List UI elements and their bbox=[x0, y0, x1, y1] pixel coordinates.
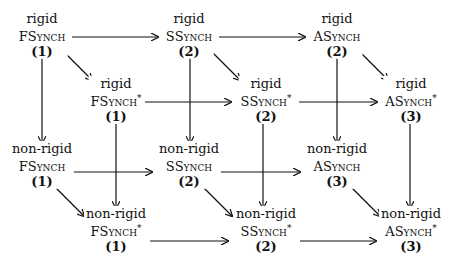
model-initial: A bbox=[314, 29, 323, 44]
node-nonrigid-ssynch: non-rigidSSynch(2) bbox=[157, 141, 221, 189]
node-model: SSynch* bbox=[241, 91, 292, 109]
node-rigid-ssynch: rigidSSynch(2) bbox=[164, 11, 214, 59]
model-initial: S bbox=[166, 29, 175, 44]
node-model: ASynch bbox=[314, 26, 361, 44]
star-marker: * bbox=[287, 93, 292, 103]
node-modifier: non-rigid bbox=[381, 206, 441, 221]
node-modifier: rigid bbox=[314, 11, 361, 26]
model-initial: A bbox=[314, 159, 323, 174]
node-modifier: rigid bbox=[91, 76, 142, 91]
node-modifier: non-rigid bbox=[159, 141, 219, 156]
node-nonrigid-ssynch-star: non-rigidSSynch*(2) bbox=[234, 206, 298, 254]
node-model: SSynch bbox=[166, 26, 212, 44]
node-modifier: rigid bbox=[241, 76, 292, 91]
model-initial: S bbox=[241, 224, 250, 239]
model-name: Synch bbox=[175, 159, 212, 174]
node-modifier: rigid bbox=[19, 11, 66, 26]
node-modifier: rigid bbox=[385, 76, 436, 91]
node-rigid-fsynch: rigidFSynch(1) bbox=[17, 11, 68, 59]
node-nonrigid-asynch: non-rigidASynch(3) bbox=[305, 141, 369, 189]
node-model: ASynch* bbox=[385, 91, 436, 109]
model-name: Synch bbox=[323, 29, 360, 44]
node-model: SSynch bbox=[159, 156, 219, 174]
node-nonrigid-asynch-star: non-rigidASynch*(3) bbox=[379, 206, 443, 254]
node-number: (3) bbox=[381, 239, 441, 254]
model-name: Synch bbox=[28, 159, 65, 174]
node-rigid-asynch-star: rigidASynch*(3) bbox=[383, 76, 438, 124]
model-name: Synch bbox=[100, 94, 137, 109]
model-initial: F bbox=[19, 159, 28, 174]
node-number: (1) bbox=[91, 109, 142, 124]
node-modifier: non-rigid bbox=[307, 141, 367, 156]
node-nonrigid-fsynch-star: non-rigidFSynch*(1) bbox=[84, 206, 148, 254]
node-modifier: rigid bbox=[166, 11, 212, 26]
node-number: (3) bbox=[385, 109, 436, 124]
node-number: (2) bbox=[241, 109, 292, 124]
model-name: Synch bbox=[249, 94, 286, 109]
node-number: (1) bbox=[86, 239, 146, 254]
model-initial: F bbox=[19, 29, 28, 44]
node-model: FSynch* bbox=[91, 91, 142, 109]
model-name: Synch bbox=[100, 224, 137, 239]
node-number: (2) bbox=[314, 44, 361, 59]
arrow-rigid-ssynch-to-rigid-ssynch-star bbox=[212, 52, 240, 80]
node-modifier: non-rigid bbox=[236, 206, 296, 221]
node-modifier: non-rigid bbox=[86, 206, 146, 221]
node-number: (1) bbox=[12, 174, 72, 189]
node-rigid-asynch: rigidASynch(2) bbox=[312, 11, 363, 59]
node-number: (2) bbox=[159, 174, 219, 189]
arrow-nonrigid-asynch-to-nonrigid-asynch-star bbox=[352, 188, 380, 216]
node-model: ASynch* bbox=[381, 221, 441, 239]
star-marker: * bbox=[137, 93, 142, 103]
node-nonrigid-fsynch: non-rigidFSynch(1) bbox=[10, 141, 74, 189]
model-initial: F bbox=[90, 224, 99, 239]
node-model: FSynch bbox=[12, 156, 72, 174]
node-model: ASynch bbox=[307, 156, 367, 174]
node-model: FSynch* bbox=[86, 221, 146, 239]
model-initial: A bbox=[385, 94, 394, 109]
model-name: Synch bbox=[395, 94, 432, 109]
star-marker: * bbox=[432, 93, 437, 103]
model-name: Synch bbox=[395, 224, 432, 239]
arrow-nonrigid-fsynch-to-nonrigid-fsynch-star bbox=[56, 188, 84, 216]
node-number: (1) bbox=[19, 44, 66, 59]
node-rigid-fsynch-star: rigidFSynch*(1) bbox=[89, 76, 144, 124]
node-number: (2) bbox=[166, 44, 212, 59]
node-modifier: non-rigid bbox=[12, 141, 72, 156]
arrow-nonrigid-ssynch-to-nonrigid-ssynch-star bbox=[204, 188, 232, 216]
model-initial: S bbox=[241, 94, 250, 109]
star-marker: * bbox=[137, 223, 142, 233]
model-name: Synch bbox=[249, 224, 286, 239]
model-initial: S bbox=[166, 159, 175, 174]
node-number: (2) bbox=[236, 239, 296, 254]
star-marker: * bbox=[432, 223, 437, 233]
model-name: Synch bbox=[175, 29, 212, 44]
node-rigid-ssynch-star: rigidSSynch*(2) bbox=[239, 76, 294, 124]
node-model: FSynch bbox=[19, 26, 66, 44]
node-model: SSynch* bbox=[236, 221, 296, 239]
model-initial: F bbox=[91, 94, 100, 109]
model-name: Synch bbox=[323, 159, 360, 174]
node-number: (3) bbox=[307, 174, 367, 189]
star-marker: * bbox=[287, 223, 292, 233]
model-name: Synch bbox=[28, 29, 65, 44]
model-initial: A bbox=[385, 224, 394, 239]
